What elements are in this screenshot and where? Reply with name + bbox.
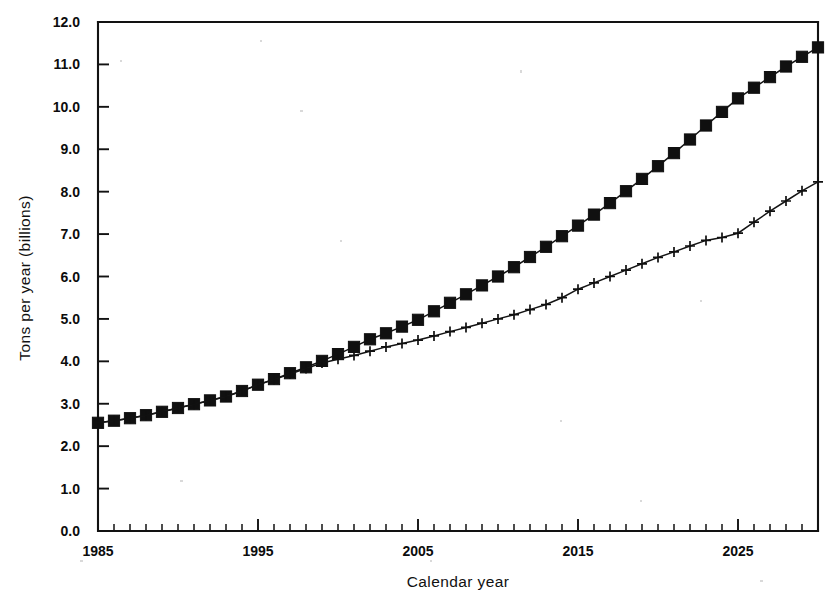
x-tick-label: 1985 [82,543,113,559]
data-point-square [700,120,711,131]
y-tick-label: 0.0 [61,523,81,539]
data-point-plus [765,206,775,216]
data-point-square [572,220,583,231]
data-point-plus [413,335,423,345]
y-tick-label: 9.0 [61,141,81,157]
data-point-plus [669,247,679,257]
data-point-plus [637,259,647,269]
data-point-plus [781,196,791,206]
x-tick-label: 2015 [562,543,593,559]
data-point-plus [541,300,551,310]
y-tick-label: 2.0 [61,438,81,454]
data-point-plus [653,252,663,262]
data-point-square [364,334,375,345]
data-point-plus [813,177,823,187]
data-point-square [444,297,455,308]
y-tick-label: 8.0 [61,184,81,200]
data-point-square [716,106,727,117]
y-tick-label: 7.0 [61,226,81,242]
data-point-square [812,42,823,53]
chart-container: 0.01.02.03.04.05.06.07.08.09.010.011.012… [0,0,837,614]
data-point-square [540,241,551,252]
data-point-plus [365,346,375,356]
data-point-square [684,134,695,145]
y-axis-title: Tons per year (billions) [16,195,33,361]
y-tick-label: 12.0 [53,14,80,30]
data-point-square [652,161,663,172]
data-point-square [428,306,439,317]
y-tick-label: 4.0 [61,353,81,369]
data-point-square [508,262,519,273]
y-tick-label: 10.0 [53,99,80,115]
y-tick-label: 1.0 [61,481,81,497]
data-point-plus [717,233,727,243]
x-tick-label: 2005 [402,543,433,559]
data-point-plus [573,284,583,294]
data-point-plus [509,310,519,320]
x-axis-title: Calendar year [407,573,510,590]
data-point-plus [445,327,455,337]
data-point-plus [733,228,743,238]
x-tick-label: 2025 [722,543,753,559]
line-chart: 0.01.02.03.04.05.06.07.08.09.010.011.012… [0,0,837,614]
data-point-plus [797,186,807,196]
data-point-plus [589,278,599,288]
data-point-square [604,198,615,209]
data-point-plus [493,314,503,324]
scan-speckle [80,40,763,582]
data-point-square [460,289,471,300]
x-axis-tick-labels: 19851995200520152025 [82,543,753,559]
data-point-plus [605,272,615,282]
y-axis-tick-labels: 0.01.02.03.04.05.06.07.08.09.010.011.012… [53,14,80,539]
data-point-square [764,72,775,83]
data-point-square [588,209,599,220]
chart-series-group [92,42,823,429]
data-point-plus [381,342,391,352]
data-point-plus [701,235,711,245]
data-point-square [668,148,679,159]
data-point-square [636,173,647,184]
data-point-square [780,61,791,72]
series-upper-series [92,42,823,429]
y-tick-label: 6.0 [61,269,81,285]
data-point-plus [429,331,439,341]
data-point-plus [621,265,631,275]
data-point-square [748,82,759,93]
data-point-square [732,93,743,104]
data-point-square [620,186,631,197]
x-tick-label: 1995 [242,543,273,559]
data-point-square [796,51,807,62]
data-point-square [380,328,391,339]
data-point-square [492,271,503,282]
data-point-square [396,321,407,332]
y-tick-label: 5.0 [61,311,81,327]
y-tick-label: 11.0 [54,56,81,72]
data-point-plus [397,339,407,349]
data-point-plus [477,318,487,328]
data-point-plus [749,217,759,227]
data-point-plus [557,293,567,303]
chart-ticks [98,22,818,531]
chart-axes [98,22,818,531]
data-point-plus [685,241,695,251]
data-point-plus [461,322,471,332]
data-point-square [524,251,535,262]
y-tick-label: 3.0 [61,396,81,412]
series-lower-series [93,177,823,428]
data-point-square [476,280,487,291]
data-point-square [412,314,423,325]
data-point-square [556,231,567,242]
data-point-plus [525,305,535,315]
